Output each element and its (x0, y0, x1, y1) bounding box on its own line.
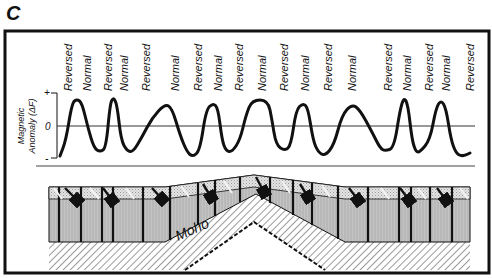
polarity-label-reversed: Reversed (102, 43, 114, 91)
polarity-label-normal: Normal (401, 55, 413, 91)
polarity-label-normal: Normal (169, 55, 181, 91)
polarity-label-normal: Normal (256, 55, 268, 91)
polarity-label-reversed: Reversed (322, 43, 334, 91)
axis-label-line1: Magnetic (16, 107, 26, 144)
polarity-label-reversed: Reversed (423, 43, 435, 91)
polarity-label-reversed: Reversed (140, 43, 152, 91)
tick-zero: 0 (45, 121, 51, 132)
polarity-label-reversed: Reversed (382, 43, 394, 91)
polarity-label-reversed: Reversed (62, 43, 74, 91)
polarity-label-normal: Normal (212, 55, 224, 91)
tick-minus: - (45, 153, 49, 164)
seafloor-spreading-diagram: ReversedNormalReversedNormalReversedNorm… (0, 0, 492, 278)
polarity-label-normal: Normal (118, 55, 130, 91)
polarity-label-reversed: Reversed (233, 43, 245, 91)
polarity-label-reversed: Reversed (464, 43, 476, 91)
polarity-label-reversed: Reversed (278, 43, 290, 91)
polarity-label-normal: Normal (81, 55, 93, 91)
magnetic-anomaly-curve (60, 99, 470, 156)
polarity-labels: ReversedNormalReversedNormalReversedNorm… (62, 43, 476, 91)
polarity-label-normal: Normal (299, 55, 311, 91)
polarity-label-reversed: Reversed (192, 43, 204, 91)
tick-plus: + (44, 87, 50, 98)
axis-label-line2: Anomaly (ΔF) (27, 98, 37, 154)
polarity-label-normal: Normal (440, 55, 452, 91)
anomaly-axis: + 0 - Magnetic Anomaly (ΔF) (16, 87, 57, 164)
polarity-label-normal: Normal (346, 55, 358, 91)
